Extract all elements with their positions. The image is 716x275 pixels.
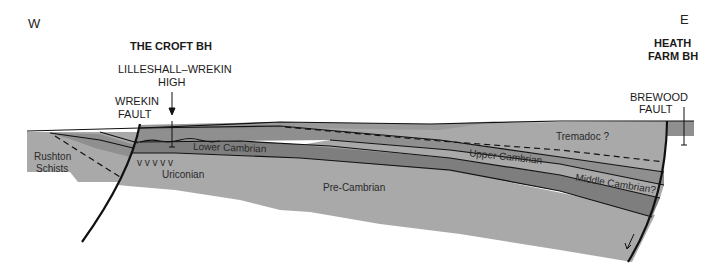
pre-cambrian-label: Pre-Cambrian bbox=[323, 182, 385, 194]
croft-borehole-label: THE CROFT BH bbox=[130, 40, 212, 53]
wrekin-fault-label-line2: FAULT bbox=[118, 108, 151, 121]
west-label: W bbox=[28, 17, 40, 30]
rushton-label-line2: Schists bbox=[36, 163, 68, 175]
uriconian-label: Uriconian bbox=[162, 169, 204, 181]
wrekin-fault-label-line1: WREKIN bbox=[115, 95, 159, 108]
east-label: E bbox=[680, 13, 689, 26]
tremadoc-label: Tremadoc ? bbox=[556, 131, 609, 143]
heath-farm-label-line2: FARM BH bbox=[648, 50, 698, 63]
high-label-line2: HIGH bbox=[158, 76, 186, 89]
rushton-label-line1: Rushton bbox=[34, 151, 71, 163]
lower-cambrian-label: Lower Cambrian bbox=[193, 141, 267, 156]
heath-farm-label-line1: HEATH bbox=[654, 37, 691, 50]
brewood-fault-label-line2: FAULT bbox=[639, 103, 672, 116]
heath-farm-block bbox=[666, 121, 694, 136]
croft-arrow-head bbox=[169, 108, 175, 115]
high-label-line1: LILLESHALL–WREKIN bbox=[118, 63, 232, 76]
uriconian-symbols: v v v v v bbox=[137, 157, 173, 169]
